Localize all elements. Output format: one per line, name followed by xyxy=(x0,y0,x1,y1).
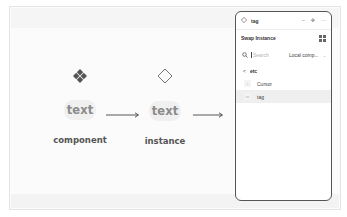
instance-node: text instance xyxy=(137,68,193,146)
minus-icon[interactable]: – xyxy=(302,18,305,23)
swap-instance-panel: tag – ✥ ··· Swap Instance Local comp... … xyxy=(235,11,332,201)
search-row: Local comp... ⌄ xyxy=(236,46,331,64)
swap-instance-header: Swap Instance xyxy=(236,30,331,46)
list-item-label: tag xyxy=(257,94,264,100)
instance-text-pill: text xyxy=(149,101,181,121)
component-label: component xyxy=(53,135,107,145)
search-icon xyxy=(242,52,248,58)
component-thumbnail-icon: ▭ xyxy=(244,93,251,100)
arrow-right-icon xyxy=(105,105,140,113)
instance-diamond-outline-icon xyxy=(157,68,173,84)
search-input[interactable] xyxy=(251,52,279,58)
target-icon[interactable]: ✥ xyxy=(311,18,315,23)
arrow-right-icon xyxy=(192,105,224,113)
panel-topbar: tag – ✥ ··· xyxy=(236,12,331,29)
swap-instance-title: Swap Instance xyxy=(241,35,319,41)
component-text-pill: text xyxy=(64,100,96,120)
library-select-value: Local comp... xyxy=(289,52,319,58)
component-thumbnail-icon: ▫ xyxy=(244,80,251,87)
selected-instance-name: tag xyxy=(251,18,259,24)
instance-diamond-outline-icon xyxy=(241,17,247,24)
breadcrumb: < etc xyxy=(236,64,331,77)
grid-view-icon[interactable] xyxy=(319,35,326,42)
library-select[interactable]: Local comp... ⌄ xyxy=(289,52,326,58)
instance-label: instance xyxy=(145,136,186,146)
component-diamond-icon xyxy=(73,69,87,83)
more-icon[interactable]: ··· xyxy=(321,18,326,23)
list-item-label: Cursor xyxy=(257,81,272,87)
breadcrumb-label: etc xyxy=(250,68,257,74)
chevron-down-icon: ⌄ xyxy=(323,53,326,58)
list-item-tag[interactable]: ▭ tag xyxy=(236,90,331,103)
component-node: text component xyxy=(52,68,108,145)
chevron-left-icon[interactable]: < xyxy=(243,68,246,74)
list-item-cursor[interactable]: ▫ Cursor xyxy=(236,77,331,90)
